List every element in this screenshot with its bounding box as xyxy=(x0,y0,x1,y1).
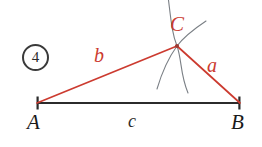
baseline-segment-AB xyxy=(37,97,240,110)
side-label-a: a xyxy=(207,55,217,75)
problem-number-badge: 4 xyxy=(22,44,49,71)
problem-number-label: 4 xyxy=(32,49,40,66)
side-label-b: b xyxy=(94,45,104,65)
vertex-label-C: C xyxy=(170,14,184,35)
side-b-line xyxy=(37,46,177,103)
side-label-c: c xyxy=(128,112,136,130)
vertex-label-A: A xyxy=(27,112,40,133)
vertex-label-B: B xyxy=(231,112,244,133)
geometry-construction-figure: 4 A B C a b c xyxy=(0,0,262,147)
vertex-point-C xyxy=(175,44,179,48)
